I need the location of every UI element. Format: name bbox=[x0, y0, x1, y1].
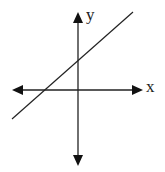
y-axis-up-arrow-icon bbox=[73, 12, 83, 23]
y-axis-label: y bbox=[86, 6, 95, 23]
y-axis-down-arrow-icon bbox=[73, 155, 83, 166]
coordinate-plane bbox=[0, 0, 165, 172]
x-axis-left-arrow-icon bbox=[12, 85, 23, 95]
y-axis bbox=[73, 12, 83, 166]
x-axis-label: x bbox=[146, 78, 155, 95]
x-axis-right-arrow-icon bbox=[132, 85, 143, 95]
plotted-line bbox=[12, 12, 133, 119]
